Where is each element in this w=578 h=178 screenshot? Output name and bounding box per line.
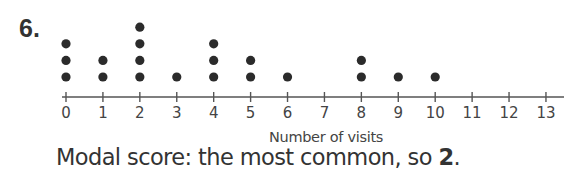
data-dot xyxy=(135,39,144,48)
axis-tick-label: 1 xyxy=(98,104,108,122)
data-dot xyxy=(61,56,70,65)
data-dot xyxy=(209,39,218,48)
data-dot xyxy=(61,72,70,81)
dot-plot-dots xyxy=(61,23,439,82)
data-dot xyxy=(431,72,440,81)
axis-tick-label: 10 xyxy=(426,104,445,122)
data-dot xyxy=(98,72,107,81)
answer-prefix: Modal score: the most common, so xyxy=(56,144,438,170)
axis-tick-label: 0 xyxy=(61,104,71,122)
number-line-axis xyxy=(62,92,564,102)
data-dot xyxy=(283,72,292,81)
data-dot xyxy=(246,56,255,65)
data-dot xyxy=(394,72,403,81)
axis-tick-label: 9 xyxy=(394,104,404,122)
data-dot xyxy=(246,72,255,81)
data-dot xyxy=(135,72,144,81)
data-dot xyxy=(209,72,218,81)
axis-tick-labels: 012345678910111213 xyxy=(61,104,555,122)
axis-tick-label: 5 xyxy=(246,104,256,122)
axis-tick-label: 12 xyxy=(499,104,518,122)
data-dot xyxy=(357,56,366,65)
answer-value: 2 xyxy=(438,144,453,170)
dot-plot: 012345678910111213 xyxy=(0,0,578,130)
axis-tick-label: 7 xyxy=(320,104,330,122)
x-axis-label: Number of visits xyxy=(0,129,578,145)
answer-suffix: . xyxy=(454,144,461,170)
axis-tick-label: 13 xyxy=(536,104,555,122)
axis-tick-label: 2 xyxy=(135,104,145,122)
data-dot xyxy=(172,72,181,81)
data-dot xyxy=(98,56,107,65)
data-dot xyxy=(357,72,366,81)
axis-tick-label: 3 xyxy=(172,104,182,122)
data-dot xyxy=(209,56,218,65)
axis-tick-label: 6 xyxy=(283,104,293,122)
data-dot xyxy=(135,56,144,65)
axis-tick-label: 4 xyxy=(209,104,219,122)
data-dot xyxy=(135,23,144,32)
data-dot xyxy=(61,39,70,48)
answer-text: Modal score: the most common, so 2. xyxy=(56,144,460,170)
axis-tick-label: 8 xyxy=(357,104,367,122)
axis-tick-label: 11 xyxy=(463,104,482,122)
